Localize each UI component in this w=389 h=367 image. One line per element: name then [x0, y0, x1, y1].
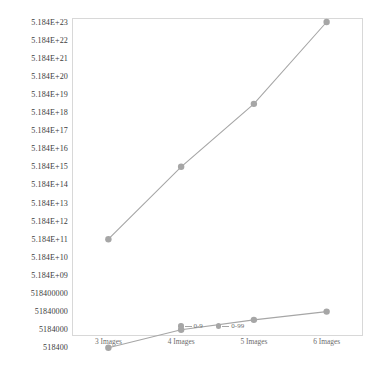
y-axis-tick: 5.184E+21 — [0, 54, 68, 63]
y-axis-tick: 5.184E+16 — [0, 144, 68, 153]
y-axis-tick: 5.184E+19 — [0, 90, 68, 99]
y-axis-tick: 518400 — [0, 343, 68, 352]
y-axis-tick: 5.184E+20 — [0, 72, 68, 81]
legend-line-icon — [185, 326, 192, 327]
y-axis-tick: 5.184E+15 — [0, 162, 68, 171]
legend-line-icon — [222, 326, 229, 327]
chart-legend: 0-90-99 — [178, 320, 244, 332]
y-axis-tick: 5.184E+12 — [0, 217, 68, 226]
y-axis-tick: 51840000 — [0, 307, 68, 316]
x-axis-tick-labels: 3 Images4 Images5 Images6 Images — [72, 337, 363, 351]
x-axis-tick: 5 Images — [218, 337, 290, 347]
x-axis-tick: 3 Images — [72, 337, 144, 347]
y-axis-tick: 5.184E+10 — [0, 253, 68, 262]
y-axis-tick: 5.184E+18 — [0, 108, 68, 117]
plot-area — [72, 18, 363, 336]
y-axis-tick: 5.184E+23 — [0, 18, 68, 27]
y-axis-tick: 5.184E+13 — [0, 199, 68, 208]
legend-entry-0-99[interactable]: 0-99 — [216, 322, 244, 330]
legend-label: 0-99 — [231, 322, 244, 330]
legend-entry-0-9[interactable]: 0-9 — [178, 322, 203, 330]
x-axis-tick: 6 Images — [291, 337, 363, 347]
y-axis-tick: 5.184E+17 — [0, 126, 68, 135]
chart-figure: 5.184E+235.184E+225.184E+215.184E+205.18… — [0, 0, 389, 367]
x-axis-tick: 4 Images — [145, 337, 217, 347]
y-axis-tick: 5.184E+14 — [0, 180, 68, 189]
legend-label: 0-9 — [194, 322, 203, 330]
y-axis-tick: 5184000 — [0, 325, 68, 334]
y-axis-tick-labels: 5.184E+235.184E+225.184E+215.184E+205.18… — [0, 14, 68, 339]
legend-marker-icon — [216, 323, 222, 329]
y-axis-tick: 5.184E+22 — [0, 36, 68, 45]
y-axis-tick: 5.184E+09 — [0, 271, 68, 280]
y-axis-tick: 518400000 — [0, 289, 68, 298]
y-axis-tick: 5.184E+11 — [0, 235, 68, 244]
legend-marker-icon — [178, 323, 184, 329]
